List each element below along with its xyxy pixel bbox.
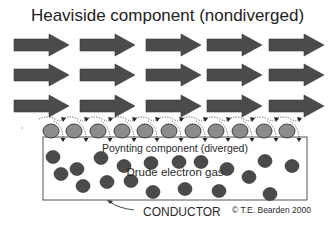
energy-flow-arrow <box>146 95 201 117</box>
diagram-graphics <box>0 0 335 230</box>
energy-flow-arrow <box>146 34 201 56</box>
electron <box>263 188 277 201</box>
energy-flow-arrow <box>269 95 324 117</box>
surface-charge <box>114 124 130 138</box>
surface-charges <box>43 124 295 138</box>
stray-dot <box>21 127 23 129</box>
surface-charge <box>185 124 201 138</box>
electron <box>212 185 226 198</box>
surface-charge <box>66 124 82 138</box>
energy-flow-arrow <box>80 64 135 86</box>
energy-flow-arrow <box>207 95 262 117</box>
surface-charge <box>43 124 59 138</box>
energy-flow-arrow <box>14 95 69 117</box>
conductor-pointer-arrow <box>107 200 134 210</box>
diagram-title: Heaviside component (nondiverged) <box>0 6 335 26</box>
energy-flow-arrow <box>80 34 135 56</box>
energy-flow-arrow <box>14 64 69 86</box>
copyright-notice: © T.E. Bearden 2000 <box>232 205 311 215</box>
electron <box>76 180 90 193</box>
energy-flow-arrow <box>80 95 135 117</box>
surface-charge <box>256 124 272 138</box>
electron <box>178 183 192 196</box>
surface-charge <box>90 124 106 138</box>
surface-charge <box>208 124 224 138</box>
conductor-label: CONDUCTOR <box>143 205 221 219</box>
surface-charge <box>232 124 248 138</box>
drude-electron-gas-label: Drude electron gas <box>0 166 335 178</box>
surface-charge <box>137 124 153 138</box>
surface-charge <box>279 124 295 138</box>
energy-flow-arrow <box>207 64 262 86</box>
poynting-component-label: Poynting component (diverged) <box>0 142 335 154</box>
surface-charge <box>161 124 177 138</box>
energy-flow-arrow <box>146 64 201 86</box>
energy-flow-arrow <box>269 34 324 56</box>
diagram-canvas: Heaviside component (nondiverged) Poynti… <box>0 0 335 230</box>
energy-flow-arrow <box>207 34 262 56</box>
electron <box>146 186 160 199</box>
energy-flow-arrow <box>14 34 69 56</box>
heaviside-energy-flow-arrows <box>14 34 324 117</box>
energy-flow-arrow <box>269 64 324 86</box>
